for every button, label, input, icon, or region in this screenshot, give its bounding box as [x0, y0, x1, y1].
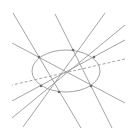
- geometry-diagram: [0, 0, 136, 139]
- intersection-point: [40, 85, 43, 88]
- intersection-point: [90, 85, 93, 88]
- intersection-point: [38, 56, 41, 59]
- intersection-point: [72, 49, 75, 52]
- background: [0, 0, 136, 139]
- intersection-point: [58, 91, 61, 94]
- intersection-point: [93, 56, 96, 59]
